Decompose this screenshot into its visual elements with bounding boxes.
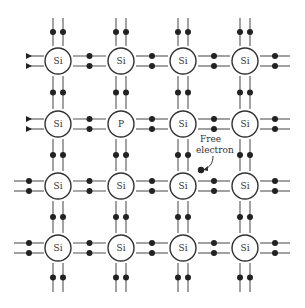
silicon-lattice-diagram: SiSiSiSiSiPSiSiSiSiSiSiSiSiSiSi Free ele… bbox=[0, 0, 305, 308]
silicon-atom: Si bbox=[232, 235, 258, 261]
atom-label: Si bbox=[178, 243, 187, 253]
horizontal-bond bbox=[260, 240, 290, 256]
vertical-bond bbox=[50, 76, 66, 109]
atom-label: Si bbox=[240, 56, 249, 66]
vertical-bond bbox=[237, 18, 253, 46]
silicon-atom: Si bbox=[170, 173, 196, 199]
horizontal-bond bbox=[73, 240, 106, 256]
vertical-bond bbox=[175, 201, 191, 233]
silicon-atom: Si bbox=[232, 48, 258, 74]
vertical-bond bbox=[175, 76, 191, 109]
atom-label: Si bbox=[53, 56, 62, 66]
vertical-bond bbox=[175, 18, 191, 46]
silicon-atom: Si bbox=[108, 48, 134, 74]
horizontal-bond bbox=[260, 178, 290, 194]
horizontal-bond bbox=[73, 116, 106, 132]
horizontal-bond bbox=[136, 240, 168, 256]
vertical-bond bbox=[175, 139, 191, 171]
atom-label: Si bbox=[116, 56, 125, 66]
atom-label: Si bbox=[53, 181, 62, 191]
atom-label: Si bbox=[53, 243, 62, 253]
silicon-atom: Si bbox=[108, 235, 134, 261]
horizontal-bond bbox=[26, 53, 44, 69]
horizontal-bond bbox=[136, 178, 168, 194]
horizontal-bond bbox=[136, 116, 168, 132]
horizontal-bond bbox=[136, 53, 168, 69]
vertical-bond bbox=[50, 201, 66, 233]
horizontal-bond bbox=[26, 116, 44, 132]
silicon-atom: Si bbox=[108, 173, 134, 199]
horizontal-bond bbox=[260, 53, 290, 69]
atom-label: Si bbox=[178, 56, 187, 66]
vertical-bond bbox=[237, 76, 253, 109]
silicon-atom: Si bbox=[45, 111, 71, 137]
horizontal-bond bbox=[14, 240, 44, 256]
silicon-atom: Si bbox=[45, 235, 71, 261]
annotation-arrow bbox=[205, 156, 213, 169]
silicon-atom: Si bbox=[45, 173, 71, 199]
horizontal-bond bbox=[198, 240, 230, 256]
silicon-atom: Si bbox=[232, 111, 258, 137]
vertical-bond bbox=[237, 139, 253, 171]
vertical-bond bbox=[113, 139, 129, 171]
atom-label: Si bbox=[116, 181, 125, 191]
horizontal-bond bbox=[73, 53, 106, 69]
silicon-atom: Si bbox=[170, 235, 196, 261]
vertical-bond bbox=[50, 263, 66, 292]
free-electron-annotation: Free electron bbox=[196, 134, 234, 173]
atom-label: Si bbox=[178, 119, 187, 129]
atom-label: Si bbox=[116, 243, 125, 253]
atom-label: Si bbox=[178, 181, 187, 191]
vertical-bond bbox=[50, 18, 66, 46]
annotation-line-1: Free bbox=[200, 134, 221, 144]
vertical-bond bbox=[175, 263, 191, 292]
horizontal-bond bbox=[198, 53, 230, 69]
vertical-bond bbox=[113, 18, 129, 46]
horizontal-bond bbox=[198, 178, 230, 194]
silicon-atom: Si bbox=[170, 48, 196, 74]
atom-label: Si bbox=[240, 181, 249, 191]
atom-label: Si bbox=[240, 243, 249, 253]
silicon-atom: Si bbox=[232, 173, 258, 199]
vertical-bond bbox=[237, 201, 253, 233]
phosphorus-atom: P bbox=[108, 111, 134, 137]
annotation-line-2: electron bbox=[196, 145, 234, 155]
atom-label: P bbox=[118, 119, 124, 129]
free-electron bbox=[198, 167, 204, 173]
silicon-atom: Si bbox=[170, 111, 196, 137]
horizontal-bond bbox=[198, 116, 230, 132]
horizontal-bond bbox=[260, 116, 290, 132]
atom-label: Si bbox=[240, 119, 249, 129]
vertical-bond bbox=[113, 76, 129, 109]
vertical-bond bbox=[237, 263, 253, 292]
atom-label: Si bbox=[53, 119, 62, 129]
vertical-bond bbox=[113, 201, 129, 233]
vertical-bond bbox=[113, 263, 129, 292]
silicon-atom: Si bbox=[45, 48, 71, 74]
horizontal-bond bbox=[14, 178, 44, 194]
vertical-bond bbox=[50, 139, 66, 171]
horizontal-bond bbox=[73, 178, 106, 194]
